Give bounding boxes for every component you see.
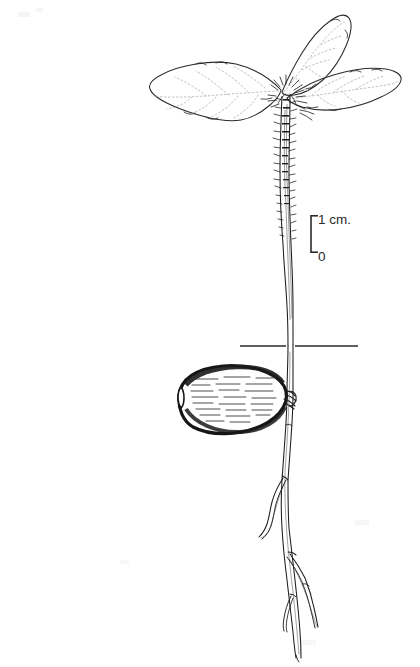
seedling-illustration: 1 cm. 0 [0, 0, 420, 667]
scale-bar-bottom-label: 0 [318, 249, 326, 264]
paper-background [0, 0, 420, 667]
acorn-hilum [178, 387, 184, 408]
scale-bar-top-label: 1 cm. [318, 212, 351, 227]
figure-canvas: 1 cm. 0 [0, 0, 420, 667]
